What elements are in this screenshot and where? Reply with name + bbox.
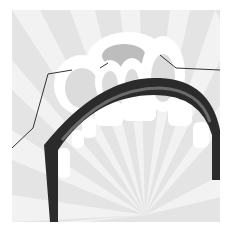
illustration-frame	[0, 0, 230, 234]
mouth-illustration	[0, 0, 230, 234]
